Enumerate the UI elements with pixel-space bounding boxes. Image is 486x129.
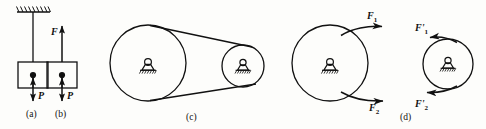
panel-label-d: (d) [400, 113, 411, 123]
large-circle-pin-support-icon [321, 59, 338, 74]
force-2-letter: F [369, 102, 376, 113]
panel-d-small-pulley [423, 37, 473, 93]
force-1-subscript: 1 [374, 16, 378, 24]
mechanics-figure [0, 0, 486, 129]
large-circle [292, 25, 368, 101]
panel-label-c: (c) [186, 113, 197, 123]
force-1-arrow [341, 26, 382, 35]
force-1-prime-letter: F [415, 22, 422, 33]
tension-label-b: F [51, 27, 58, 37]
left-pulley [110, 25, 186, 101]
panel-d-large-pulley [292, 25, 383, 101]
force-2-prime-label: F'2 [415, 99, 428, 112]
force-2-subscript: 2 [376, 108, 380, 116]
left-pulley-pin-support-icon [139, 59, 156, 74]
right-pulley-pin-support-icon [235, 59, 251, 73]
force-1-prime-subscript: 1 [424, 28, 428, 36]
force-2-prime-arrow [427, 86, 457, 93]
weight-label-a: P [38, 91, 44, 101]
panel-c [110, 25, 264, 101]
panel-label-b: (b) [55, 110, 66, 120]
force-1-label: F1 [367, 11, 377, 24]
ceiling-hatch-icon [17, 7, 51, 13]
small-circle-pin-support-icon [440, 57, 456, 71]
force-1-letter: F [367, 10, 374, 21]
weight-label-b: P [67, 91, 73, 101]
force-1-prime-label: F'1 [415, 23, 428, 36]
panel-a [17, 7, 51, 102]
force-2-prime-letter: F [415, 98, 422, 109]
panel-label-a: (a) [26, 110, 37, 120]
force-2-prime-subscript: 2 [424, 104, 428, 112]
force-2-label: F2 [369, 103, 379, 116]
